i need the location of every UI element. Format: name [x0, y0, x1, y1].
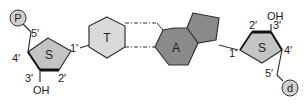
left-c1-label: 1′ [70, 42, 78, 54]
left-sugar-label: S [45, 48, 53, 62]
right-sugar-label: S [258, 41, 266, 55]
left-c4-label: 4′ [12, 52, 20, 64]
right-oh-label: OH [267, 10, 284, 22]
right-c5-bond [277, 50, 283, 81]
right-c1-label: 1′ [229, 47, 237, 59]
left-c3-label: 3′ [25, 72, 33, 84]
diagram-svg: P 5′ S 4′ 1′ 3′ 2′ OH T [0, 0, 305, 105]
right-sugar: S [240, 32, 282, 63]
left-sugar: S [28, 38, 71, 70]
thymine-label: T [103, 31, 111, 45]
right-phosphate: d [282, 80, 298, 96]
left-phosphate-label: P [14, 12, 21, 24]
left-glycosidic-bond [80, 45, 89, 48]
thymine-base: T [89, 17, 125, 58]
adenine-base: A [155, 13, 219, 65]
right-c5-label: 5′ [265, 67, 273, 79]
left-c2-label: 2′ [58, 72, 66, 84]
left-c5-label: 5′ [31, 27, 39, 39]
adenine-label: A [172, 41, 180, 55]
nucleotide-base-pair-diagram: P 5′ S 4′ 1′ 3′ 2′ OH T [0, 0, 305, 105]
right-phosphate-label: d [287, 82, 293, 94]
left-phosphate: P [10, 10, 31, 32]
left-oh-label: OH [33, 84, 50, 96]
right-c4-label: 4′ [284, 44, 292, 56]
right-c2-label: 2′ [249, 19, 257, 31]
